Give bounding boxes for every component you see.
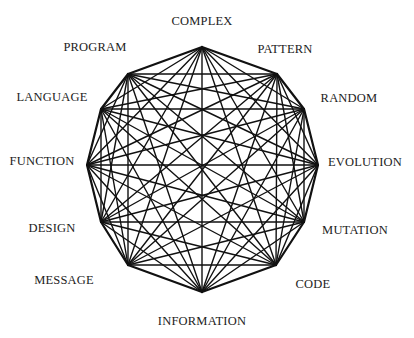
label-program: PROGRAM bbox=[63, 40, 126, 54]
concept-network-diagram: COMPLEX PATTERN RANDOM EVOLUTION MUTATIO… bbox=[0, 0, 414, 338]
label-language: LANGUAGE bbox=[16, 90, 87, 104]
edge-function-program bbox=[87, 74, 128, 165]
label-pattern: PATTERN bbox=[257, 42, 312, 56]
edge-message-function bbox=[87, 165, 128, 265]
edges-group bbox=[87, 47, 318, 292]
label-function: FUNCTION bbox=[10, 154, 75, 168]
label-random: RANDOM bbox=[321, 91, 378, 105]
edge-information-design bbox=[101, 222, 202, 292]
label-information: INFORMATION bbox=[158, 314, 246, 328]
label-complex: COMPLEX bbox=[171, 14, 232, 28]
edge-code-information bbox=[202, 265, 276, 292]
label-mutation: MUTATION bbox=[322, 223, 388, 237]
edge-pattern-code bbox=[276, 74, 277, 265]
edge-mutation-information bbox=[202, 222, 304, 292]
label-code: CODE bbox=[296, 277, 331, 291]
label-evolution: EVOLUTION bbox=[328, 155, 402, 169]
label-design: DESIGN bbox=[28, 221, 75, 235]
edge-information-message bbox=[128, 265, 202, 292]
edge-evolution-program bbox=[128, 74, 318, 165]
label-message: MESSAGE bbox=[34, 273, 94, 287]
